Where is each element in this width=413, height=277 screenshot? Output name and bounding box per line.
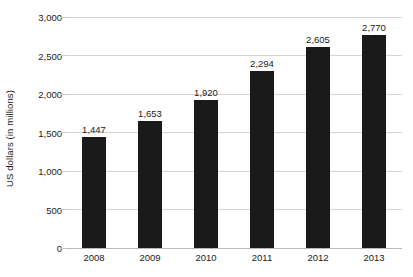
bar[interactable] bbox=[250, 71, 274, 248]
y-axis-tick-label: 2,000 bbox=[38, 89, 62, 100]
bar[interactable] bbox=[306, 47, 330, 248]
x-axis-tick-label: 2011 bbox=[252, 252, 272, 263]
x-axis-tick-label: 2012 bbox=[307, 252, 328, 263]
bar-group[interactable]: 1,447 bbox=[82, 17, 106, 248]
x-axis-tick-label: 2010 bbox=[195, 252, 216, 263]
x-axis-tick-label: 2008 bbox=[83, 252, 104, 263]
bar-value-label: 1,447 bbox=[82, 124, 106, 135]
y-axis-tick-label: 2,500 bbox=[38, 50, 62, 61]
bar-group[interactable]: 1,653 bbox=[138, 17, 162, 248]
bar-value-label: 2,605 bbox=[306, 34, 330, 45]
bar-value-label: 1,920 bbox=[194, 87, 218, 98]
plot-area: 1,4471,6531,9202,2942,6052,770 bbox=[66, 17, 402, 248]
bar-group[interactable]: 1,920 bbox=[194, 17, 218, 248]
bar-group[interactable]: 2,770 bbox=[362, 17, 386, 248]
y-axis-tick-label: 3,000 bbox=[38, 12, 62, 23]
y-axis-tick-label: 1,000 bbox=[38, 166, 62, 177]
bar[interactable] bbox=[194, 100, 218, 248]
x-axis-tick-label: 2009 bbox=[139, 252, 160, 263]
bar[interactable] bbox=[138, 121, 162, 248]
bar[interactable] bbox=[82, 137, 106, 248]
bar-value-label: 2,770 bbox=[362, 22, 386, 33]
bar-value-label: 1,653 bbox=[138, 108, 162, 119]
y-axis-title-label: US dollars (in millions) bbox=[4, 90, 15, 187]
y-axis-tick-labels: 05001,0001,5002,0002,5003,000 bbox=[18, 0, 66, 277]
x-axis-tick-label: 2013 bbox=[363, 252, 384, 263]
bar[interactable] bbox=[362, 35, 386, 248]
y-axis-tick-label: 1,500 bbox=[38, 127, 62, 138]
bar-group[interactable]: 2,294 bbox=[250, 17, 274, 248]
x-axis-tick-labels: 200820092010201120122013 bbox=[66, 252, 402, 268]
bar-group[interactable]: 2,605 bbox=[306, 17, 330, 248]
bar-value-label: 2,294 bbox=[250, 58, 274, 69]
y-axis-title: US dollars (in millions) bbox=[0, 0, 18, 277]
bar-chart: US dollars (in millions) 05001,0001,5002… bbox=[0, 0, 413, 277]
bars-layer: 1,4471,6531,9202,2942,6052,770 bbox=[66, 17, 402, 248]
